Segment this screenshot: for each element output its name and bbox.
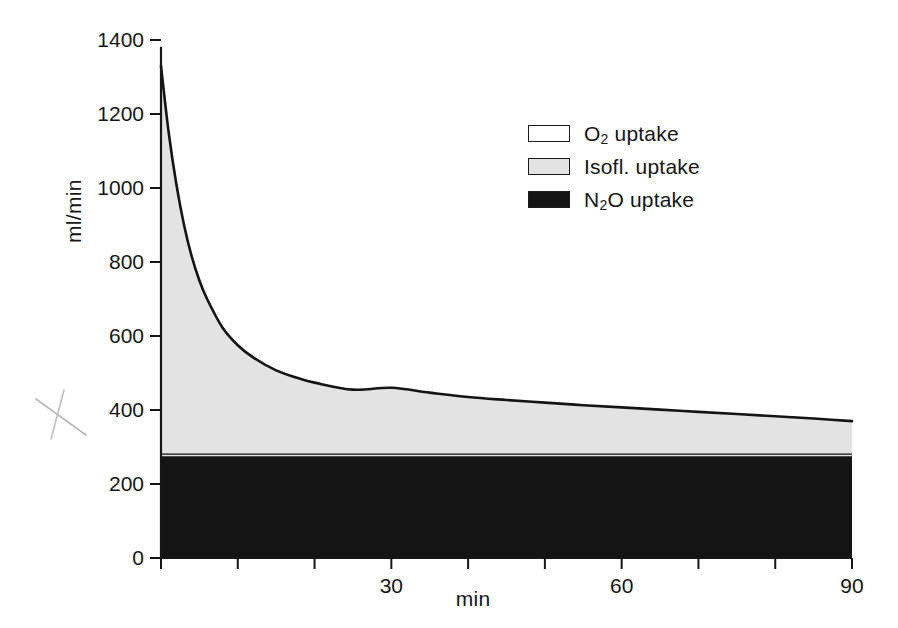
chart-legend: O2 uptake Isofl. uptake N2O uptake: [528, 122, 700, 210]
legend-item-o2: O2 uptake: [528, 122, 700, 144]
y-tick-label: 400: [52, 399, 144, 420]
x-axis-title-text: min: [456, 587, 491, 610]
y-tick-label: 600: [52, 325, 144, 346]
area-n2o-uptake: [161, 456, 852, 558]
y-tick-label: 1200: [52, 103, 144, 124]
legend-label-isofl: Isofl. uptake: [584, 156, 700, 177]
legend-item-n2o: N2O uptake: [528, 188, 700, 210]
legend-label-o2: O2 uptake: [584, 123, 679, 144]
x-axis-ticks: [161, 558, 852, 569]
y-tick-label: 0: [52, 547, 144, 568]
x-axis-title: min: [0, 587, 898, 611]
legend-swatch-o2: [528, 125, 570, 142]
legend-swatch-isofl: [528, 158, 570, 175]
y-tick-label: 1400: [52, 29, 144, 50]
y-axis-title: ml/min: [62, 123, 86, 243]
legend-item-isofl: Isofl. uptake: [528, 155, 700, 177]
legend-label-n2o: N2O uptake: [584, 189, 694, 210]
legend-swatch-n2o: [528, 191, 570, 208]
chart-figure: [0, 0, 898, 628]
y-tick-label: 800: [52, 251, 144, 272]
y-tick-label: 200: [52, 473, 144, 494]
y-axis-ticks: [150, 40, 161, 558]
